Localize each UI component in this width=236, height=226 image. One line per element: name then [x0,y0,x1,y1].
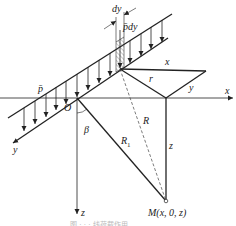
y-segment [166,71,206,98]
label-p-bar: p̄ [38,84,43,94]
label-r: r [149,74,153,84]
label-y-small: y [189,83,193,93]
load-arrows [24,20,162,131]
label-R: R [143,116,149,126]
label-M: M(x, 0, z) [148,208,186,218]
label-z-axis: z [81,208,85,218]
label-x-top: x [165,57,169,67]
label-O: O [64,103,71,113]
figure-caption: 图 · · · 线荷载作用 [70,219,128,226]
label-x-axis: x [225,86,229,96]
label-dy: dy [112,4,121,14]
point-M [164,199,168,203]
beta-arc [77,109,87,113]
load-upper-line [8,14,172,118]
r-segment [120,69,166,98]
label-p-dy: p̄dy [123,22,137,32]
diagram-canvas [0,0,236,226]
R1-segment [77,98,166,201]
label-beta: β [84,125,89,135]
label-R1: R1 [121,136,131,149]
label-z-segment: z [169,141,173,151]
label-y-axis: y [13,145,17,155]
y-axis-line [13,38,168,143]
x-segment [120,69,206,71]
